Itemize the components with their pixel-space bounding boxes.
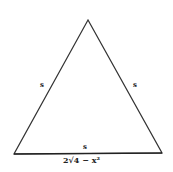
base-length-expression: 2√4 − x² (63, 156, 100, 164)
triangle-base (14, 153, 162, 154)
left-side-label: s (40, 81, 44, 88)
right-side-label: s (133, 81, 137, 88)
base-side-label: s (83, 143, 87, 150)
triangle (14, 20, 162, 154)
